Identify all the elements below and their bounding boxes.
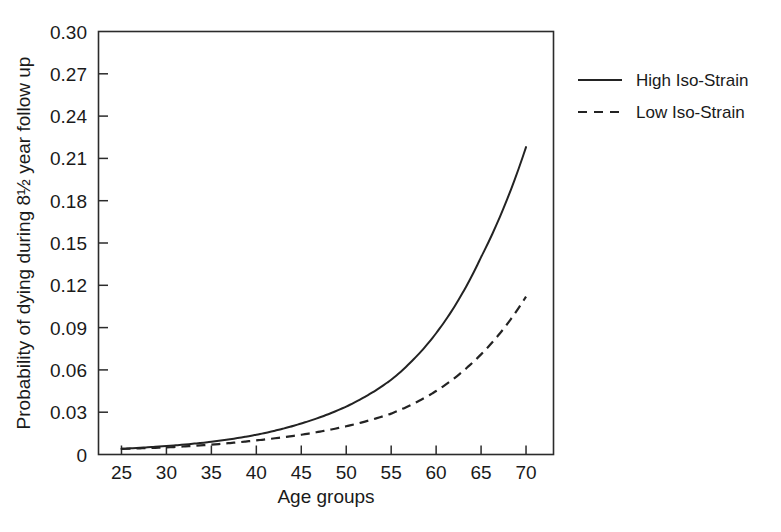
series-line-low-iso-strain <box>121 297 526 449</box>
y-tick-label: 0.15 <box>50 233 87 254</box>
y-tick-label: 0.03 <box>50 402 87 423</box>
y-tick-label: 0.18 <box>50 191 87 212</box>
y-tick-label: 0.12 <box>50 275 87 296</box>
y-axis-ticks <box>99 74 108 412</box>
chart-page: 00.030.060.090.120.150.180.210.240.270.3… <box>0 0 781 532</box>
y-tick-label: 0.21 <box>50 148 87 169</box>
x-tick-label: 60 <box>426 462 447 483</box>
y-axis-tick-labels: 00.030.060.090.120.150.180.210.240.270.3… <box>50 22 87 466</box>
y-tick-label: 0.09 <box>50 318 87 339</box>
legend: High Iso-Strain Low Iso-Strain <box>578 71 748 122</box>
x-tick-label: 35 <box>201 462 222 483</box>
x-tick-label: 25 <box>111 462 132 483</box>
y-tick-label: 0 <box>76 445 87 466</box>
x-tick-label: 30 <box>156 462 177 483</box>
legend-label-high-iso-strain: High Iso-Strain <box>636 71 748 90</box>
y-axis-title: Probability of dying during 8½ year foll… <box>13 57 34 430</box>
x-axis-title: Age groups <box>277 486 374 507</box>
y-tick-label: 0.30 <box>50 22 87 43</box>
x-tick-label: 70 <box>515 462 536 483</box>
x-tick-label: 65 <box>471 462 492 483</box>
series-line-high-iso-strain <box>121 147 526 449</box>
x-tick-label: 55 <box>381 462 402 483</box>
probability-of-dying-line-chart: 00.030.060.090.120.150.180.210.240.270.3… <box>0 0 781 532</box>
x-axis-tick-labels: 25303540455055606570 <box>111 462 537 483</box>
x-tick-label: 50 <box>336 462 357 483</box>
x-tick-label: 40 <box>246 462 267 483</box>
y-tick-label: 0.24 <box>50 106 87 127</box>
legend-label-low-iso-strain: Low Iso-Strain <box>636 103 745 122</box>
x-tick-label: 45 <box>291 462 312 483</box>
y-tick-label: 0.27 <box>50 64 87 85</box>
plot-frame <box>99 32 554 455</box>
y-tick-label: 0.06 <box>50 360 87 381</box>
